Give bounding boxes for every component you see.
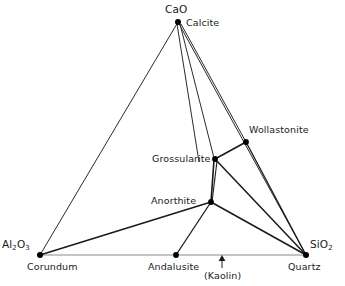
label-anorthite: Anorthite (151, 196, 196, 206)
tieline-cao-grossularite-b (180, 24, 214, 158)
label-al2o3: Al2O3 (2, 239, 30, 252)
node-sio2 (303, 252, 309, 258)
label-grossularite: Grossularite (152, 154, 211, 164)
tieline-grossularite-wollastonite (215, 142, 246, 159)
edge-cao-al2o3 (40, 22, 178, 255)
kaolin-arrow-head (219, 255, 226, 261)
label-corundum: Corundum (27, 262, 78, 272)
label-al2o3-sub2: 3 (25, 244, 30, 252)
label-sio2: SiO2 (310, 239, 333, 252)
label-wollastonite: Wollastonite (249, 125, 309, 135)
tieline-anorthite-al2o3 (40, 202, 211, 255)
tieline-grossularite-sio2 (215, 159, 306, 255)
label-quartz: Quartz (288, 262, 321, 272)
tieline-cao-wollastonite (181, 24, 246, 142)
label-calcite: Calcite (186, 18, 219, 28)
diagram-canvas (0, 0, 345, 286)
label-sio2-a: SiO (310, 238, 328, 250)
tieline-cao-grossularite-a (177, 24, 199, 162)
node-andalusite (173, 252, 179, 258)
ternary-phase-diagram: CaO Calcite Al2O3 Corundum SiO2 Quartz W… (0, 0, 345, 286)
label-al2o3-b: O (17, 238, 25, 250)
label-kaolin: (Kaolin) (204, 271, 241, 281)
node-wollastonite (243, 139, 249, 145)
node-anorthite (208, 199, 214, 205)
label-cao: CaO (165, 4, 187, 15)
node-cao (175, 19, 181, 25)
tieline-anorthite-andalusite (176, 202, 211, 255)
label-andalusite: Andalusite (148, 262, 199, 272)
node-al2o3 (37, 252, 43, 258)
label-sio2-sub1: 2 (328, 244, 333, 252)
label-al2o3-a: Al (2, 238, 12, 250)
node-grossularite (212, 156, 218, 162)
